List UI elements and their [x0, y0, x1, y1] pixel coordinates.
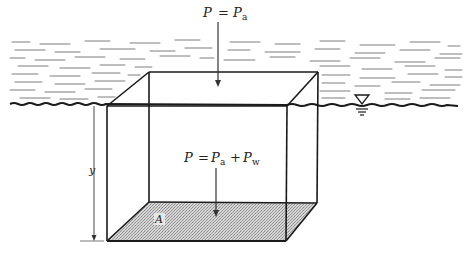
- top-label-term1: P: [232, 5, 242, 20]
- bottom-label-term2: P: [242, 150, 252, 165]
- top-pressure-label: P = P a: [202, 5, 248, 22]
- top-pressure-arrow: [215, 22, 221, 87]
- bottom-label-term2-sub: w: [252, 157, 260, 167]
- submerged-box-diagram: y A P = P a P = P a + P w: [0, 0, 467, 254]
- top-label-eq: =: [218, 5, 229, 20]
- bottom-label-var: P: [183, 150, 193, 165]
- top-label-term1-sub: a: [242, 12, 248, 22]
- bottom-label-term1: P: [210, 150, 220, 165]
- top-label-var: P: [202, 5, 212, 20]
- bottom-label-plus: +: [230, 150, 241, 165]
- area-label: A: [154, 213, 163, 226]
- depth-label: y: [88, 164, 96, 177]
- bottom-label-term1-sub: a: [220, 157, 226, 167]
- water-hatching: [10, 40, 462, 99]
- bottom-pressure-label: P = P a + P w: [183, 150, 260, 167]
- bottom-label-eq: =: [198, 150, 209, 165]
